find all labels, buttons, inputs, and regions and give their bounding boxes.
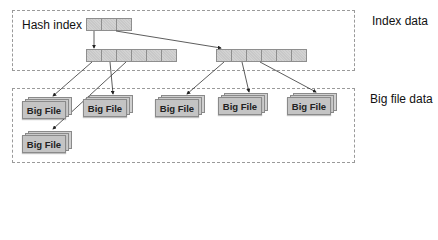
big-file-stack: Big File bbox=[22, 131, 72, 155]
big-file-label: Big File bbox=[292, 101, 326, 112]
big-file-label: Big File bbox=[27, 139, 61, 150]
big-file-stack: Big File bbox=[22, 97, 72, 121]
big-file-stack: Big File bbox=[287, 93, 337, 117]
big-file-stack: Big File bbox=[218, 93, 268, 117]
big-file-stack: Big File bbox=[155, 95, 205, 119]
big-file-label: Big File bbox=[88, 103, 122, 114]
big-file-label: Big File bbox=[223, 101, 257, 112]
big-file-label: Big File bbox=[27, 105, 61, 116]
big-file-label: Big File bbox=[160, 103, 194, 114]
big-file-stack: Big File bbox=[83, 95, 133, 119]
